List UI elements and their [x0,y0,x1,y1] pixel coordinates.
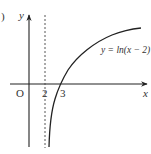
y-axis-label: y [18,9,24,21]
tick-label-2: 2 [42,87,48,99]
function-graph: ) y x O 2 3 y = ln(x − 2) [0,0,151,154]
x-axis-label: x [142,87,148,99]
part-label: ) [1,10,5,23]
origin-label: O [16,87,24,99]
tick-label-3: 3 [60,87,66,99]
equation-label: y = ln(x − 2) [100,45,150,56]
